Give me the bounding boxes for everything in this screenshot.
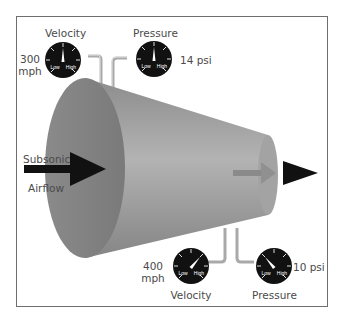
pressure-value-outlet: 10 psi	[293, 261, 325, 273]
svg-text:Low: Low	[50, 64, 60, 70]
velocity-gauge-inlet: Low High	[45, 42, 81, 78]
flow-label-airflow: Airflow	[28, 182, 64, 194]
svg-text:High: High	[157, 63, 168, 69]
pressure-tap-lines-bottom	[203, 228, 254, 262]
velocity-gauge-outlet: Low High	[173, 248, 209, 284]
svg-text:Low: Low	[178, 270, 188, 276]
velocity-label-inlet: Velocity	[45, 27, 83, 39]
svg-text:High: High	[277, 270, 288, 276]
velocity-label-outlet: Velocity	[170, 289, 212, 301]
velocity-value-outlet: 400 mph	[140, 260, 166, 284]
flow-label-subsonic: Subsonic	[23, 153, 70, 165]
pressure-gauge-inlet: Low High	[136, 41, 172, 77]
svg-text:Low: Low	[261, 270, 271, 276]
pressure-gauge-outlet: Low High	[256, 248, 292, 284]
svg-text:Low: Low	[141, 63, 151, 69]
pressure-value-inlet: 14 psi	[180, 54, 212, 66]
velocity-value-inlet: 300 mph	[18, 53, 42, 77]
svg-text:High: High	[66, 64, 77, 70]
pressure-label-outlet: Pressure	[252, 289, 296, 301]
pressure-label-inlet: Pressure	[133, 27, 177, 39]
svg-text:High: High	[194, 270, 205, 276]
